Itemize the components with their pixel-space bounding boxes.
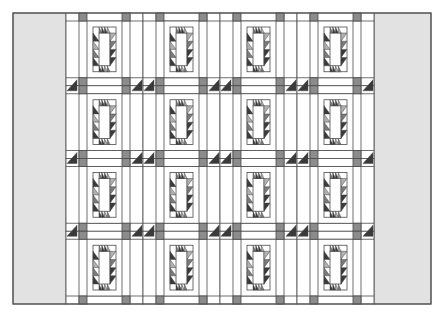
quilt-block	[220, 231, 297, 304]
cornerstone	[233, 13, 241, 21]
block-center	[99, 106, 110, 139]
cornerstone	[122, 223, 130, 231]
quilt-block	[66, 159, 143, 232]
cornerstone	[122, 159, 130, 167]
cornerstone	[276, 296, 284, 304]
cornerstone	[353, 78, 361, 86]
cornerstone	[79, 13, 87, 21]
quilt-block	[66, 231, 143, 304]
cornerstone	[199, 223, 207, 231]
cornerstone	[353, 151, 361, 159]
quilt-block	[143, 86, 220, 159]
cornerstone	[353, 159, 361, 167]
cornerstone	[122, 231, 130, 239]
cornerstone	[276, 231, 284, 239]
block-center	[176, 106, 187, 139]
cornerstone	[199, 151, 207, 159]
cornerstone	[199, 231, 207, 239]
block-center	[176, 251, 187, 284]
cornerstone	[310, 151, 318, 159]
cornerstone	[79, 296, 87, 304]
cornerstone	[310, 13, 318, 21]
cornerstone	[233, 223, 241, 231]
cornerstone	[156, 78, 164, 86]
block-center	[330, 179, 341, 212]
quilt-block	[220, 159, 297, 232]
cornerstone	[310, 159, 318, 167]
cornerstone	[233, 86, 241, 94]
cornerstone	[122, 78, 130, 86]
cornerstone	[156, 223, 164, 231]
block-center	[253, 251, 264, 284]
cornerstone	[353, 13, 361, 21]
cornerstone	[233, 151, 241, 159]
cornerstone	[156, 13, 164, 21]
block-center	[253, 179, 264, 212]
cornerstone	[310, 86, 318, 94]
cornerstone	[79, 159, 87, 167]
cornerstone	[156, 231, 164, 239]
cornerstone	[79, 231, 87, 239]
block-center	[176, 33, 187, 66]
block-center	[330, 106, 341, 139]
cornerstone	[276, 86, 284, 94]
cornerstone	[199, 86, 207, 94]
cornerstone	[199, 296, 207, 304]
quilt-block	[297, 13, 374, 86]
cornerstone	[276, 78, 284, 86]
block-center	[253, 33, 264, 66]
cornerstone	[199, 159, 207, 167]
cornerstone	[310, 296, 318, 304]
cornerstone	[310, 78, 318, 86]
cornerstone	[156, 296, 164, 304]
left-border	[13, 13, 66, 304]
quilt-diagram	[0, 0, 435, 316]
cornerstone	[199, 78, 207, 86]
cornerstone	[79, 223, 87, 231]
cornerstone	[276, 159, 284, 167]
cornerstone	[310, 223, 318, 231]
cornerstone	[79, 151, 87, 159]
block-center	[330, 33, 341, 66]
cornerstone	[199, 13, 207, 21]
cornerstone	[233, 78, 241, 86]
cornerstone	[353, 296, 361, 304]
cornerstone	[233, 296, 241, 304]
cornerstone	[79, 86, 87, 94]
block-center	[99, 251, 110, 284]
right-border	[374, 13, 431, 304]
cornerstone	[156, 86, 164, 94]
cornerstone	[79, 78, 87, 86]
cornerstone	[156, 159, 164, 167]
block-center	[330, 251, 341, 284]
cornerstone	[122, 151, 130, 159]
quilt-block	[66, 86, 143, 159]
cornerstone	[156, 151, 164, 159]
quilt-block	[66, 13, 143, 86]
cornerstone	[122, 13, 130, 21]
block-center	[99, 179, 110, 212]
block-center	[176, 179, 187, 212]
cornerstone	[122, 86, 130, 94]
cornerstone	[276, 223, 284, 231]
block-center	[253, 106, 264, 139]
cornerstone	[353, 231, 361, 239]
quilt-block	[297, 86, 374, 159]
cornerstone	[276, 151, 284, 159]
cornerstone	[276, 13, 284, 21]
cornerstone	[353, 223, 361, 231]
cornerstone	[353, 86, 361, 94]
quilt-block	[297, 231, 374, 304]
quilt-blocks	[66, 13, 374, 304]
cornerstone	[233, 231, 241, 239]
quilt-block	[143, 13, 220, 86]
cornerstone	[233, 159, 241, 167]
cornerstone	[122, 296, 130, 304]
quilt-block	[297, 159, 374, 232]
quilt-block	[220, 86, 297, 159]
block-center	[99, 33, 110, 66]
cornerstone	[310, 231, 318, 239]
quilt-block	[143, 231, 220, 304]
quilt-block	[220, 13, 297, 86]
quilt-block	[143, 159, 220, 232]
